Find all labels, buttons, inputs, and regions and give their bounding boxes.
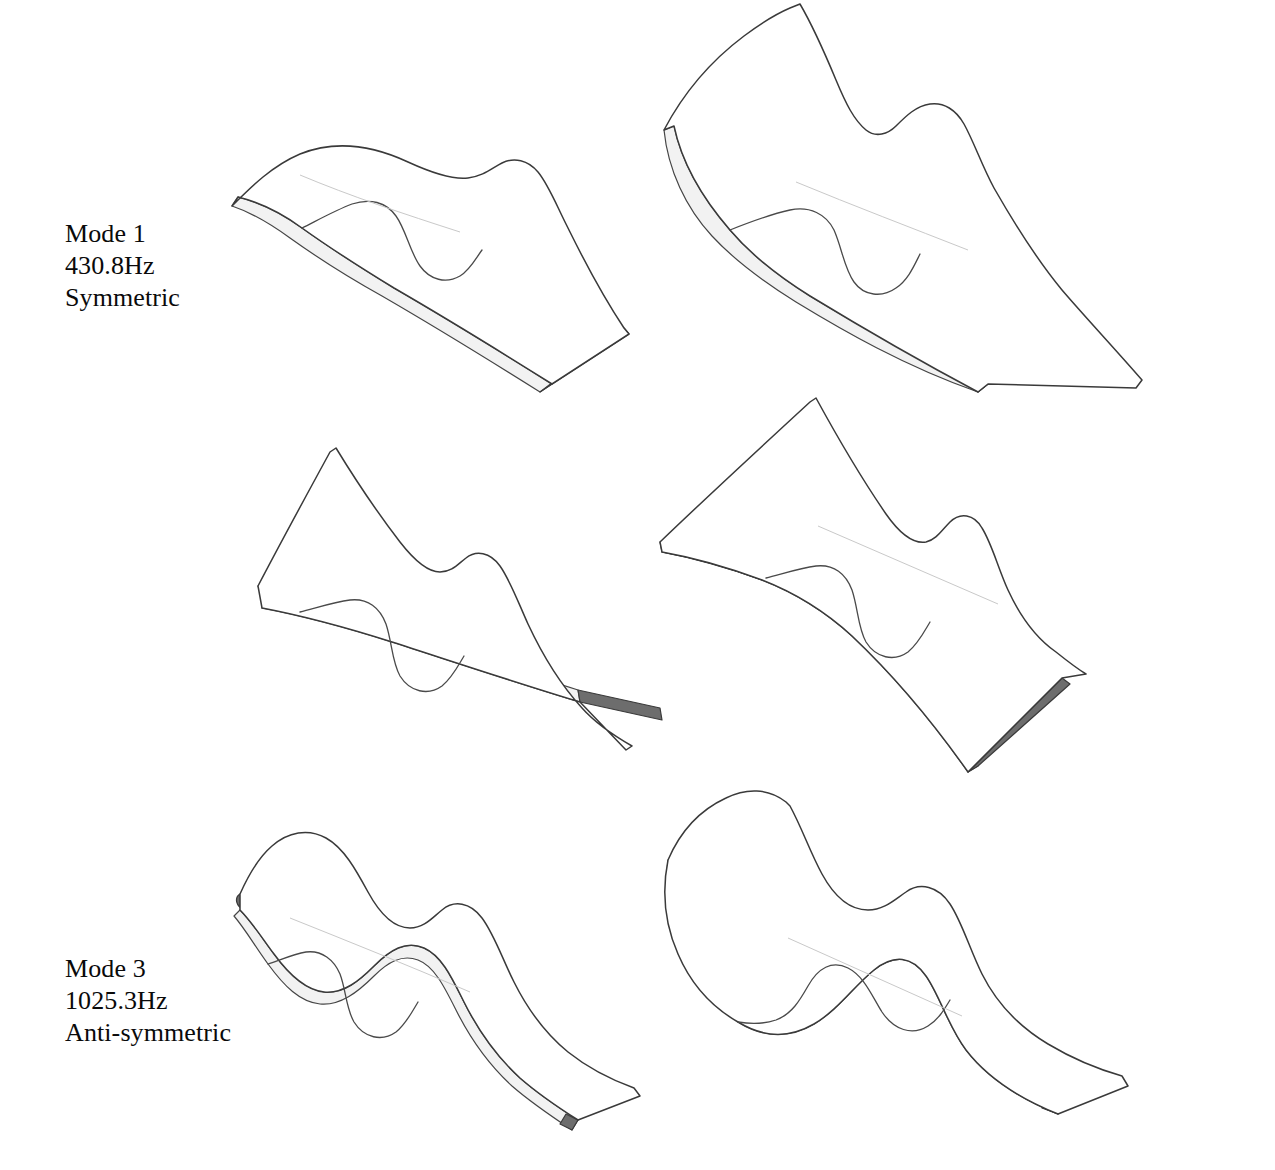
mode-cell-5: Mode 5 2405.3Hz Symmetric — [0, 780, 637, 1170]
mode-1-symmetry: Symmetric — [65, 282, 180, 314]
mode-shapes-figure: Mode 1 430.8Hz Symmetric Mode 2 804.6Hz … — [0, 0, 1275, 1170]
mode-cell-6: Mode 6 2825.1Hz Anti-symmetric — [638, 780, 1275, 1170]
mode-1-name: Mode 1 — [65, 218, 180, 250]
mode-shape-render-5 — [0, 780, 637, 1170]
mode-6-surface — [665, 791, 1128, 1114]
mode-2-surface — [664, 4, 1142, 392]
mode-cell-1: Mode 1 430.8Hz Symmetric — [0, 0, 637, 390]
mode-shape-render-2 — [638, 0, 1275, 390]
mode-shape-render-1 — [0, 0, 637, 390]
mode-shape-render-4 — [638, 390, 1275, 780]
mode-cell-3: Mode 3 1025.3Hz Anti-symmetric — [0, 390, 637, 780]
mode-4-surface — [660, 398, 1086, 772]
mode-1-label: Mode 1 430.8Hz Symmetric — [65, 218, 180, 314]
mode-cell-4: Mode 4 1129.3Hz Symmetric — [638, 390, 1275, 780]
mode-shape-render-6 — [638, 780, 1275, 1170]
mode-cell-2: Mode 2 804.6Hz Anti-symmetric — [638, 0, 1275, 390]
mode-3-surface — [258, 448, 632, 750]
mode-1-surface — [232, 146, 629, 384]
mode-shape-render-3 — [0, 390, 637, 780]
mode-1-frequency: 430.8Hz — [65, 250, 180, 282]
